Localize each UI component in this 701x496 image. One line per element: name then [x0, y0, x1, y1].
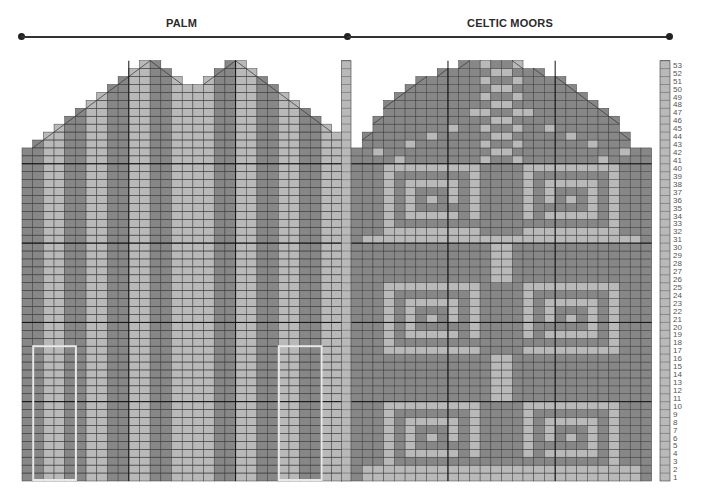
- celtic-cell: [544, 330, 555, 338]
- celtic-cell: [502, 299, 513, 307]
- celtic-cell: [459, 291, 470, 299]
- celtic-cell: [587, 235, 598, 243]
- celtic-cell: [491, 267, 502, 275]
- celtic-cell: [609, 219, 620, 227]
- celtic-cell: [491, 433, 502, 441]
- celtic-cell: [416, 370, 427, 378]
- celtic-cell: [544, 235, 555, 243]
- celtic-cell: [534, 124, 545, 132]
- celtic-cell: [544, 148, 555, 156]
- celtic-cell: [544, 394, 555, 402]
- celtic-cell: [577, 402, 588, 410]
- row-number: 7: [673, 426, 678, 435]
- celtic-cell: [609, 156, 620, 164]
- celtic-cell: [405, 275, 416, 283]
- celtic-cell: [598, 283, 609, 291]
- celtic-cell: [427, 77, 438, 85]
- celtic-cell: [555, 465, 566, 473]
- celtic-cell: [502, 418, 513, 426]
- celtic-cell: [448, 362, 459, 370]
- row-number: 19: [673, 330, 682, 339]
- celtic-cell: [620, 307, 631, 315]
- celtic-cell: [416, 425, 427, 433]
- celtic-cell: [437, 473, 448, 481]
- celtic-cell: [394, 148, 405, 156]
- celtic-cell: [566, 227, 577, 235]
- celtic-cell: [534, 203, 545, 211]
- celtic-cell: [459, 211, 470, 219]
- celtic-cell: [448, 259, 459, 267]
- celtic-cell: [641, 291, 652, 299]
- celtic-cell: [512, 330, 523, 338]
- row-number: 42: [673, 148, 682, 157]
- celtic-cell: [480, 251, 491, 259]
- celtic-cell: [480, 346, 491, 354]
- celtic-cell: [523, 259, 534, 267]
- celtic-cell: [544, 338, 555, 346]
- celtic-cell: [577, 219, 588, 227]
- celtic-cell: [405, 164, 416, 172]
- celtic-cell: [427, 465, 438, 473]
- row-number: 32: [673, 227, 682, 236]
- celtic-cell: [437, 180, 448, 188]
- celtic-cell: [448, 100, 459, 108]
- celtic-cell: [491, 378, 502, 386]
- celtic-cell: [469, 473, 480, 481]
- celtic-cell: [394, 378, 405, 386]
- celtic-cell: [577, 196, 588, 204]
- celtic-cell: [512, 140, 523, 148]
- celtic-cell: [512, 132, 523, 140]
- celtic-cell: [459, 402, 470, 410]
- celtic-cell: [459, 116, 470, 124]
- celtic-cell: [480, 259, 491, 267]
- celtic-cell: [544, 473, 555, 481]
- celtic-cell: [373, 370, 384, 378]
- celtic-cell: [502, 203, 513, 211]
- celtic-cell: [469, 180, 480, 188]
- celtic-cell: [480, 69, 491, 77]
- celtic-cell: [362, 188, 373, 196]
- celtic-cell: [394, 433, 405, 441]
- celtic-cell: [362, 378, 373, 386]
- celtic-cell: [544, 402, 555, 410]
- celtic-cell: [459, 346, 470, 354]
- celtic-cell: [512, 283, 523, 291]
- celtic-cell: [373, 314, 384, 322]
- celtic-cell: [534, 457, 545, 465]
- celtic-cell: [469, 196, 480, 204]
- celtic-cell: [373, 338, 384, 346]
- celtic-cell: [566, 275, 577, 283]
- row-number: 4: [673, 449, 678, 458]
- celtic-cell: [641, 267, 652, 275]
- celtic-cell: [502, 172, 513, 180]
- celtic-cell: [373, 465, 384, 473]
- celtic-cell: [491, 362, 502, 370]
- celtic-cell: [362, 425, 373, 433]
- celtic-cell: [502, 307, 513, 315]
- celtic-cell: [480, 299, 491, 307]
- celtic-cell: [491, 418, 502, 426]
- celtic-cell: [469, 370, 480, 378]
- celtic-cell: [427, 148, 438, 156]
- celtic-cell: [416, 188, 427, 196]
- celtic-cell: [587, 322, 598, 330]
- celtic-cell: [620, 203, 631, 211]
- celtic-cell: [523, 346, 534, 354]
- celtic-cell: [459, 172, 470, 180]
- celtic-cell: [630, 473, 641, 481]
- celtic-cell: [577, 457, 588, 465]
- celtic-cell: [384, 219, 395, 227]
- celtic-cell: [620, 188, 631, 196]
- celtic-cell: [362, 211, 373, 219]
- celtic-cell: [437, 322, 448, 330]
- celtic-cell: [394, 410, 405, 418]
- celtic-cell: [523, 457, 534, 465]
- celtic-cell: [598, 322, 609, 330]
- celtic-cell: [587, 299, 598, 307]
- celtic-cell: [566, 116, 577, 124]
- celtic-cell: [437, 433, 448, 441]
- celtic-cell: [577, 378, 588, 386]
- celtic-cell: [523, 227, 534, 235]
- celtic-cell: [448, 132, 459, 140]
- celtic-cell: [437, 211, 448, 219]
